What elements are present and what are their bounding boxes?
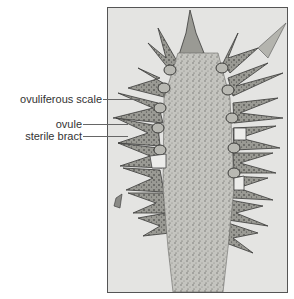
leader-ovule [83, 124, 128, 125]
label-sterile-bract: sterile bract [2, 130, 82, 142]
leader-ovuliferous-scale [103, 99, 140, 100]
micrograph-frame [107, 7, 288, 293]
cone-section-illustration [108, 8, 287, 292]
label-ovule: ovule [2, 118, 82, 130]
cone-apex [178, 10, 204, 58]
right-flare [258, 23, 286, 58]
label-ovuliferous-scale: ovuliferous scale [2, 93, 102, 105]
detached-fragment [114, 194, 122, 208]
leader-sterile-bract [83, 136, 128, 137]
